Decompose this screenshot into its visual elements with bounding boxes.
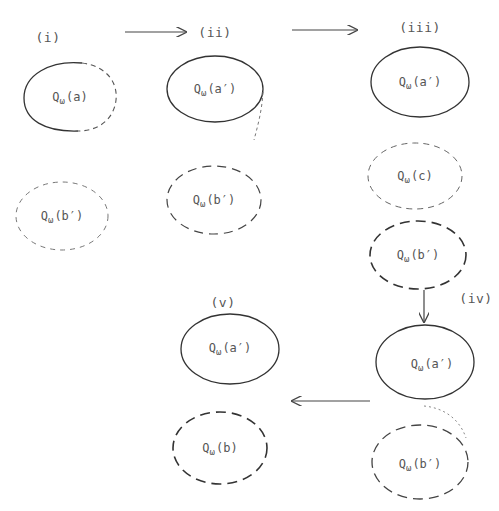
node-ii-b-label: Qω(b′) bbox=[193, 193, 236, 209]
dotted-arc-iv bbox=[424, 406, 466, 438]
node-iii-c-label: Qω(c) bbox=[397, 169, 432, 185]
node-iv-b-label: Qω(b′) bbox=[399, 457, 442, 473]
node-iv-a-label: Qω(a′) bbox=[411, 357, 454, 373]
node-iii-b-label: Qω(b′) bbox=[397, 248, 440, 264]
dotted-tail-ii bbox=[254, 92, 263, 140]
node-iii-a-label: Qω(a′) bbox=[399, 75, 442, 91]
stage-label-v: (v) bbox=[211, 295, 236, 310]
node-i-b-label: Qω(b′) bbox=[41, 209, 84, 225]
stage-label-iv: (iv) bbox=[459, 291, 492, 306]
node-v-a-label: Qω(a′) bbox=[209, 341, 252, 357]
diagram-canvas: (i) (ii) (iii) (iv) (v) Qω(a) Qω(b′) Qω(… bbox=[0, 0, 499, 511]
node-v-b-label: Qω(b) bbox=[202, 441, 237, 457]
stage-label-ii: (ii) bbox=[198, 25, 231, 40]
stage-label-i: (i) bbox=[36, 30, 61, 45]
node-i-a-label: Qω(a) bbox=[52, 90, 87, 106]
stage-label-iii: (iii) bbox=[399, 20, 441, 35]
node-ii-a-label: Qω(a′) bbox=[194, 82, 237, 98]
